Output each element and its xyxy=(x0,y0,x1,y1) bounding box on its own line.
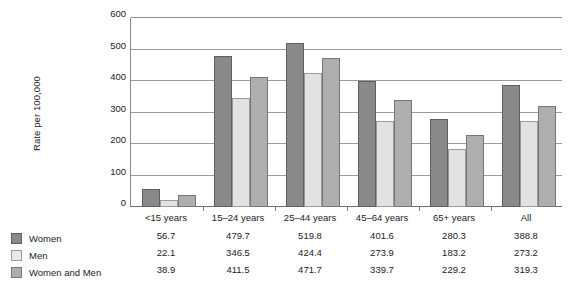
data-cell-both-0: 38.9 xyxy=(157,264,176,275)
legend-swatch-men-icon xyxy=(11,250,22,261)
bar-both-3 xyxy=(394,100,412,207)
bar-both-2 xyxy=(322,58,340,207)
legend-swatch-both-icon xyxy=(11,267,22,278)
data-cell-women-2: 519.8 xyxy=(298,230,322,241)
y-axis-tick-200: 200 xyxy=(110,134,126,145)
bar-both-0 xyxy=(178,195,196,207)
bar-women-4 xyxy=(430,119,448,207)
legend-item-women[interactable]: Women xyxy=(11,230,101,247)
y-axis-tick-400: 400 xyxy=(110,71,126,82)
data-cell-men-5: 273.2 xyxy=(514,247,538,258)
y-axis-tick-500: 500 xyxy=(110,39,126,50)
y-axis-title: Rate per 100,000 xyxy=(31,34,42,194)
grouped-bar-chart: Rate per 100,000 0100200300400500600 <15… xyxy=(0,0,574,292)
bar-men-1 xyxy=(232,98,250,207)
x-axis-tick-1 xyxy=(275,207,276,211)
data-cell-men-0: 22.1 xyxy=(157,247,176,258)
bar-men-3 xyxy=(376,121,394,207)
y-axis-tick-100: 100 xyxy=(110,165,126,176)
x-axis-label-1: 15–24 years xyxy=(212,212,264,223)
bar-both-5 xyxy=(538,106,556,207)
x-axis-tick-2 xyxy=(347,207,348,211)
bar-men-4 xyxy=(448,149,466,207)
data-cell-men-2: 424.4 xyxy=(298,247,322,258)
bar-both-1 xyxy=(250,77,268,207)
bar-women-5 xyxy=(502,85,520,207)
x-axis-tick-4 xyxy=(491,207,492,211)
x-axis-label-2: 25–44 years xyxy=(284,212,336,223)
gridline-200 xyxy=(131,143,562,144)
legend-item-men[interactable]: Men xyxy=(11,247,101,264)
bar-men-5 xyxy=(520,121,538,207)
gridline-500 xyxy=(131,49,562,50)
data-cell-both-4: 229.2 xyxy=(442,264,466,275)
bar-women-2 xyxy=(286,43,304,207)
data-cell-both-5: 319.3 xyxy=(514,264,538,275)
x-axis-tick-3 xyxy=(419,207,420,211)
data-cell-women-0: 56.7 xyxy=(157,230,176,241)
chart-legend: WomenMenWomen and Men xyxy=(11,230,101,281)
legend-label-both: Women and Men xyxy=(29,267,101,278)
y-axis-tick-300: 300 xyxy=(110,102,126,113)
gridline-100 xyxy=(131,175,562,176)
data-cell-men-4: 183.2 xyxy=(442,247,466,258)
x-axis-label-4: 65+ years xyxy=(433,212,475,223)
y-axis-tick-600: 600 xyxy=(110,8,126,19)
bar-men-2 xyxy=(304,73,322,207)
gridline-300 xyxy=(131,112,562,113)
bar-women-3 xyxy=(358,81,376,208)
plot-area: 0100200300400500600 xyxy=(130,18,562,207)
gridline-400 xyxy=(131,80,562,81)
legend-label-women: Women xyxy=(29,233,62,244)
bar-women-0 xyxy=(142,189,160,207)
x-axis-tick-0 xyxy=(203,207,204,211)
y-axis-tick-0: 0 xyxy=(121,197,126,208)
legend-label-men: Men xyxy=(29,250,47,261)
data-cell-both-2: 471.7 xyxy=(298,264,322,275)
legend-item-both[interactable]: Women and Men xyxy=(11,264,101,281)
bar-men-0 xyxy=(160,200,178,207)
bar-both-4 xyxy=(466,135,484,207)
data-cell-both-1: 411.5 xyxy=(226,264,249,275)
x-axis-label-3: 45–64 years xyxy=(356,212,408,223)
x-axis-label-0: <15 years xyxy=(145,212,187,223)
data-cell-both-3: 339.7 xyxy=(370,264,394,275)
data-cell-women-4: 280.3 xyxy=(442,230,466,241)
data-cell-men-1: 346.5 xyxy=(226,247,250,258)
x-axis-label-5: All xyxy=(521,212,532,223)
data-cell-men-3: 273.9 xyxy=(370,247,394,258)
gridline-600 xyxy=(131,17,562,18)
data-cell-women-5: 388.8 xyxy=(514,230,538,241)
data-cell-women-3: 401.6 xyxy=(370,230,394,241)
data-cell-women-1: 479.7 xyxy=(226,230,250,241)
legend-swatch-women-icon xyxy=(11,233,22,244)
bar-women-1 xyxy=(214,56,232,207)
